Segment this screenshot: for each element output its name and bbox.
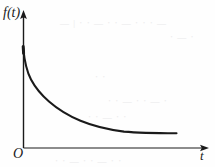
origin-label: O — [13, 147, 23, 161]
x-axis-label: t — [200, 149, 204, 162]
function-curve — [23, 48, 176, 133]
plot-svg — [0, 0, 215, 167]
y-axis-label: f(t) — [3, 6, 20, 20]
figure-container: — | ⋅ ⋅ — ⋅ ⋅ — ⋅ ⋅ ⋅ —⋅ — ⋅⋅ ⋅⋅ ⋅ — ⋅ ⋅… — [0, 0, 215, 167]
